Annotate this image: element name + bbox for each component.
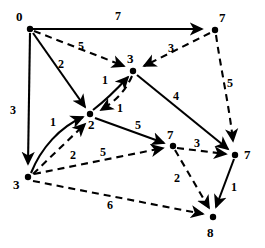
edge-weight-0-3-bottomleft: 3 xyxy=(10,104,16,116)
edge-weight-3-mid-2-center: 1 xyxy=(117,102,123,114)
edge-3-bottomleft-to-2-center-solid xyxy=(31,117,83,173)
node-dot-0[interactable] xyxy=(27,26,33,32)
edge-weight-7-top-3-mid: 3 xyxy=(168,42,174,54)
graph-figure: 0 7 3 2 3 7 7 8 7 5 2 3 1 1 3 5 4 1 2 5 … xyxy=(0,0,265,248)
node-label-3-mid: 3 xyxy=(127,52,134,65)
node-dot-7-mid[interactable] xyxy=(170,143,176,149)
node-label-7-mid: 7 xyxy=(167,128,174,141)
graph-canvas xyxy=(0,0,265,248)
node-label-3-bottomleft: 3 xyxy=(13,178,20,191)
node-dot-7-right[interactable] xyxy=(232,152,238,158)
node-dot-7-top[interactable] xyxy=(212,27,218,33)
node-label-8: 8 xyxy=(207,226,214,239)
edge-weight-3-bottomleft-7-mid: 5 xyxy=(100,146,106,158)
edge-0-to-3-bottomleft xyxy=(28,33,30,164)
edge-weight-2-center-3-mid: 1 xyxy=(102,74,108,86)
node-label-7-top: 7 xyxy=(219,11,226,24)
edge-weight-0-2-center: 2 xyxy=(58,58,64,70)
edge-weight-3-bottomleft-2-center-dashed: 2 xyxy=(70,149,76,161)
edge-weight-3-bottomleft-2-center-solid: 1 xyxy=(50,116,56,128)
node-label-2-center: 2 xyxy=(88,118,95,131)
edge-7-mid-to-7-right xyxy=(177,148,226,154)
edge-weight-7-right-8: 1 xyxy=(231,181,237,193)
edge-7-mid-to-8 xyxy=(175,150,209,208)
edge-2-center-to-7-mid xyxy=(95,118,164,143)
edge-3-bottomleft-to-7-mid xyxy=(34,148,163,174)
edge-3-bottomleft-to-8 xyxy=(33,181,203,214)
edge-weight-2-center-7-mid: 5 xyxy=(135,119,141,131)
node-dot-8[interactable] xyxy=(210,214,216,220)
edge-7-top-to-3-mid xyxy=(144,33,210,66)
node-dot-3-bottomleft[interactable] xyxy=(25,174,31,180)
node-dot-3-mid[interactable] xyxy=(130,68,136,74)
edge-weight-3-mid-7-right: 4 xyxy=(173,90,179,102)
edge-weight-7-mid-7-right: 3 xyxy=(194,137,200,149)
edge-weight-7-top-7-right: 5 xyxy=(227,77,233,89)
node-label-7-right: 7 xyxy=(244,148,251,161)
edge-weight-7-mid-8: 2 xyxy=(174,172,180,184)
node-label-0: 0 xyxy=(16,10,23,23)
edge-weight-0-7-top: 7 xyxy=(115,10,121,22)
edge-weight-3-bottomleft-8: 6 xyxy=(107,199,113,211)
edge-weight-0-3-mid: 5 xyxy=(78,40,84,52)
